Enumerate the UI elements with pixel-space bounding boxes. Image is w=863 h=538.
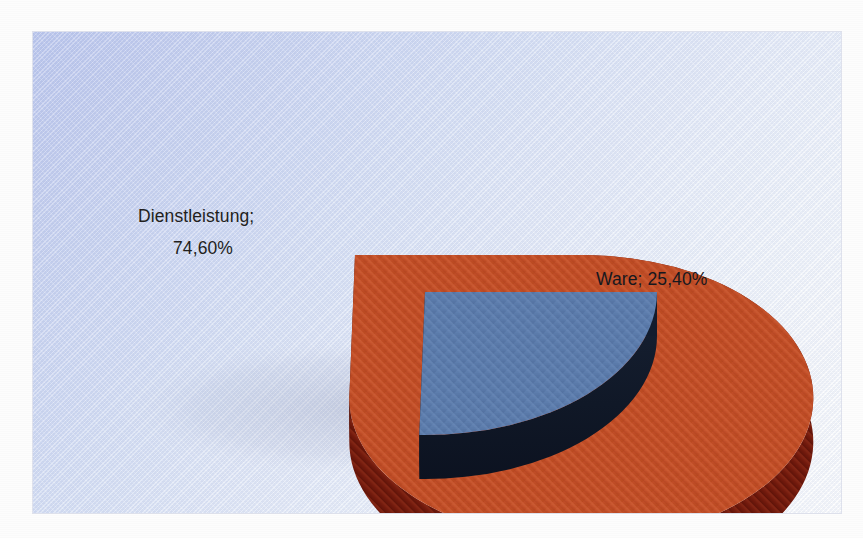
- slice-ware-label-line1: Ware; 25,40%: [596, 269, 707, 289]
- chart-plot-area: Dienstleistung; 74,60% Ware; 25,40%: [33, 32, 841, 513]
- slice-ware-label: Ware; 25,40%: [596, 269, 707, 289]
- pie-chart-svg: Dienstleistung; 74,60% Ware; 25,40%: [33, 32, 841, 513]
- chart-page: Dienstleistung; 74,60% Ware; 25,40%: [0, 0, 863, 538]
- slice-dienstleistung-label: Dienstleistung; 74,60%: [138, 206, 254, 258]
- slice-dienstleistung-label-line2: 74,60%: [173, 238, 233, 258]
- slice-dienstleistung-label-line1: Dienstleistung;: [138, 206, 254, 226]
